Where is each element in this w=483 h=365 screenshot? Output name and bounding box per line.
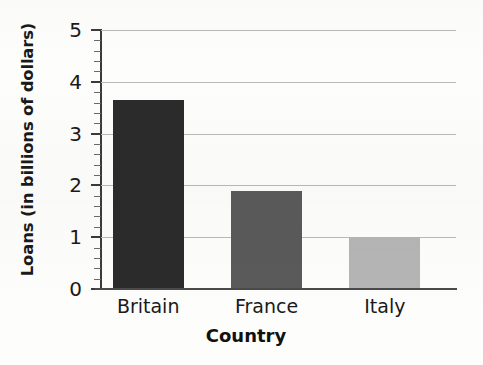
y-minor-tick <box>94 196 101 197</box>
y-tick-label: 4 <box>60 72 82 92</box>
bar-france <box>231 191 302 289</box>
y-minor-tick <box>94 165 101 166</box>
y-minor-tick <box>94 248 101 249</box>
y-minor-tick <box>94 154 101 155</box>
y-minor-tick <box>94 103 101 104</box>
y-tick-label: 0 <box>60 279 82 299</box>
gridline <box>101 30 456 31</box>
y-minor-tick <box>94 71 101 72</box>
y-axis-title: Loans (in billions of dollars) <box>18 5 37 295</box>
y-minor-tick <box>94 113 101 114</box>
y-tick-label: 5 <box>60 20 82 40</box>
y-minor-tick <box>94 268 101 269</box>
y-minor-tick <box>94 216 101 217</box>
y-minor-tick <box>94 258 101 259</box>
plot-area <box>101 30 456 289</box>
x-axis-title: Country <box>101 325 391 346</box>
bar-chart-figure: Loans (in billions of dollars) 543210 Br… <box>0 0 483 365</box>
category-label-italy: Italy <box>364 295 405 317</box>
y-minor-tick <box>94 40 101 41</box>
y-minor-tick <box>94 92 101 93</box>
y-minor-tick <box>94 175 101 176</box>
y-axis-tick-labels: 543210 <box>52 0 82 365</box>
gridline <box>101 82 456 83</box>
x-axis-baseline <box>95 288 457 290</box>
y-minor-tick <box>94 227 101 228</box>
bar-italy <box>349 237 420 289</box>
y-minor-tick <box>94 144 101 145</box>
x-axis-category-labels: BritainFranceItaly <box>101 295 456 325</box>
y-tick-label: 3 <box>60 124 82 144</box>
y-minor-tick <box>94 123 101 124</box>
y-tick-label: 1 <box>60 227 82 247</box>
y-minor-tick <box>94 206 101 207</box>
y-minor-tick <box>94 61 101 62</box>
y-minor-tick <box>94 51 101 52</box>
bar-britain <box>113 100 184 289</box>
category-label-france: France <box>235 295 298 317</box>
category-label-britain: Britain <box>117 295 180 317</box>
y-tick-label: 2 <box>60 175 82 195</box>
y-minor-tick <box>94 279 101 280</box>
